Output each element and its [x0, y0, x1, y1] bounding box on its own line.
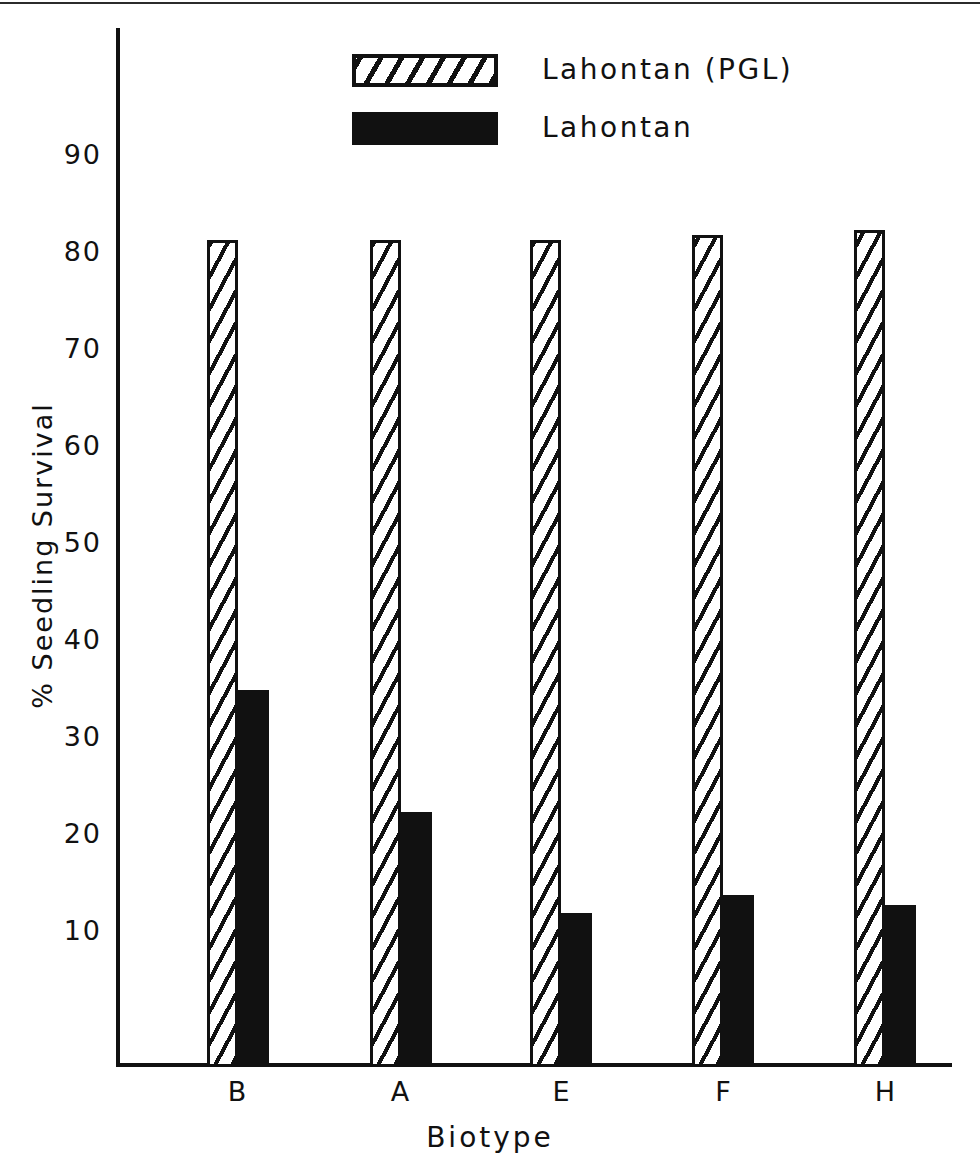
x-axis-title: Biotype: [0, 1121, 980, 1154]
bar-pgl-B: [207, 240, 238, 1067]
legend-label-lahontan: Lahontan: [542, 108, 693, 148]
y-axis-line: [116, 28, 120, 1067]
bar-pgl-F: [692, 235, 723, 1067]
x-tick-H: H: [855, 1078, 915, 1105]
bar-lahontan-F: [723, 895, 754, 1067]
bar-lahontan-A: [401, 812, 432, 1067]
legend-label-pgl: Lahontan (PGL): [542, 50, 793, 90]
bar-lahontan-B: [238, 690, 269, 1067]
bar-pgl-H: [854, 230, 885, 1067]
x-tick-B: B: [207, 1078, 267, 1105]
image-top-border: [0, 2, 980, 4]
chart-legend: Lahontan (PGL) Lahontan: [352, 46, 812, 162]
bar-pgl-E: [530, 240, 561, 1067]
solid-swatch-icon: [352, 112, 498, 145]
y-tick-90: 90: [46, 141, 102, 168]
y-tick-20: 20: [46, 820, 102, 847]
y-tick-80: 80: [46, 238, 102, 265]
hatched-swatch-icon: [352, 54, 498, 87]
y-tick-70: 70: [46, 335, 102, 362]
bar-chart-figure: 90 80 70 60 50 40 30 20 10 % Seedling Su…: [0, 0, 980, 1173]
x-tick-E: E: [531, 1078, 591, 1105]
y-axis-title: % Seedling Survival: [27, 366, 58, 746]
bar-pgl-A: [370, 240, 401, 1067]
x-tick-F: F: [693, 1078, 753, 1105]
x-tick-A: A: [370, 1078, 430, 1105]
y-tick-10: 10: [46, 917, 102, 944]
bar-lahontan-H: [885, 905, 916, 1067]
legend-entry-lahontan: Lahontan: [352, 104, 812, 162]
bar-lahontan-E: [561, 913, 592, 1067]
legend-entry-pgl: Lahontan (PGL): [352, 46, 812, 104]
